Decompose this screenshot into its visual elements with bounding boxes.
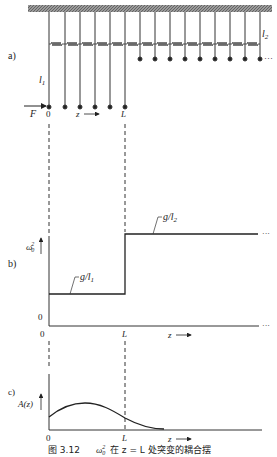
caption-text: 在 z = L 处突变的耦合摆 (110, 444, 211, 455)
x-L-b: L (121, 329, 127, 339)
x-zero-c: 0 (46, 433, 51, 443)
caption-number: 图 3.12 (48, 445, 80, 455)
origin-label-a: 0 (46, 109, 51, 119)
step-ellipsis-b: ··· (262, 229, 270, 238)
l1-label: l1 (39, 74, 45, 87)
panel-a-label: a) (8, 50, 16, 62)
ceiling-support (28, 5, 272, 12)
xlabel-c: z (167, 434, 172, 444)
short-pendulums (138, 12, 262, 61)
z-label-a: z (75, 109, 80, 119)
x-L-c: L (121, 433, 127, 443)
omega-step-curve (49, 234, 258, 294)
x-zero-b: 0 (40, 329, 45, 339)
panel-c: c) A(z) 0 L z (8, 341, 262, 444)
g-over-l1-label: g/l1 (80, 271, 94, 284)
amplitude-curve (49, 403, 164, 429)
panel-c-label: c) (8, 387, 15, 397)
g-over-l2-label: g/l2 (163, 211, 178, 224)
y-zero-b: 0 (38, 312, 43, 322)
x-axis-ellipsis-b: ··· (262, 321, 270, 330)
long-pendulums (47, 12, 127, 109)
panel-b-label: b) (8, 258, 16, 270)
leader-high (153, 217, 162, 234)
amplitude-ylabel: A(z) (17, 399, 33, 409)
figure-caption: 图 3.12 ω02 在 z = L 处突变的耦合摆 (48, 444, 211, 456)
coupled-pendulum-figure: a) l1 l2 ··· F 0 z L ··· ··· g/l1 g/l2 ω… (0, 0, 277, 457)
force-label: F (29, 108, 37, 119)
caption-omega: ω02 (96, 444, 105, 456)
l2-label: l2 (262, 28, 269, 41)
panel-b: ··· ··· g/l1 g/l2 ω02 b) 0 0 L z (8, 124, 270, 340)
xlabel-b: z (167, 330, 172, 340)
panel-a: a) l1 l2 ··· F 0 z L (8, 5, 273, 119)
panel-a-ellipsis: ··· (264, 53, 273, 63)
leader-low (70, 277, 79, 294)
omega-ylabel: ω02 (26, 241, 34, 253)
L-label-a: L (120, 109, 126, 119)
